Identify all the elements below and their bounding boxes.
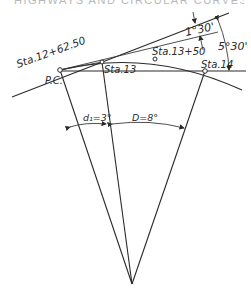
dim-arrow-1-30-top (193, 12, 195, 23)
label-angle-D: D=8° (132, 112, 158, 123)
radius-pc (60, 70, 132, 284)
label-pc-station: Sta.12+62.50 (15, 34, 88, 70)
label-sta13: Sta.13 (104, 64, 136, 75)
radius-sta13 (102, 62, 132, 284)
point-pc (58, 68, 63, 73)
label-sta13-50: Sta.13+50 (152, 46, 205, 57)
curve-diagram: Sta.12+62.50 P.C. Sta.13 Sta.13+50 Sta.1… (0, 0, 251, 291)
label-angle-5-30: 5°30' (218, 40, 248, 53)
label-angle-1-30: 1°30' (184, 20, 216, 39)
label-sta14: Sta.14 (201, 59, 233, 70)
label-angle-d1: d₁=3° (83, 112, 112, 123)
dim-arc-D (112, 122, 184, 128)
point-sta13-50 (153, 57, 157, 61)
label-pc: P.C. (45, 75, 63, 86)
radius-sta14 (132, 71, 205, 284)
dim-arc-d1 (70, 123, 106, 127)
